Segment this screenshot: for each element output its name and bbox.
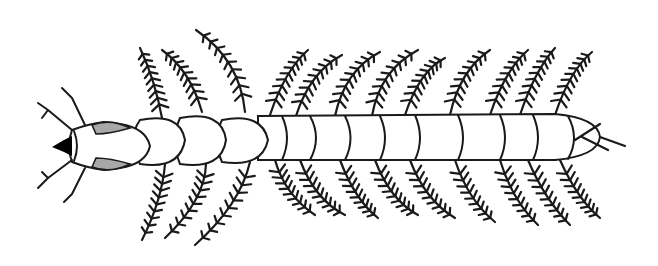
gills-ventral — [142, 160, 600, 245]
larva-drawing — [0, 0, 658, 266]
thorax — [133, 116, 268, 165]
head — [38, 88, 150, 202]
larva-figure: Larva illustration, dorsal view — [0, 0, 658, 266]
mandible-icon — [52, 136, 72, 156]
gills-dorsal — [139, 30, 592, 118]
abdomen — [258, 114, 600, 160]
